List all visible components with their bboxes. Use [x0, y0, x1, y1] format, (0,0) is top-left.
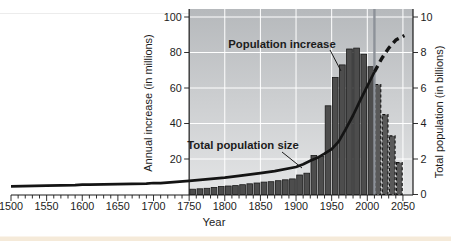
increase-bar — [204, 188, 210, 194]
increase-bar — [290, 179, 296, 195]
right-tick-label: 4 — [421, 117, 427, 129]
annotation-total-population: Total population size — [187, 139, 299, 151]
page-edge-strip — [0, 237, 451, 241]
increase-bar — [318, 156, 324, 194]
right-tick-label: 6 — [421, 82, 427, 94]
x-tick-label: 1900 — [284, 200, 308, 212]
increase-bar — [275, 181, 281, 195]
x-tick-label: 1800 — [213, 200, 237, 212]
increase-bar — [190, 189, 196, 194]
x-tick-label: 1650 — [106, 200, 130, 212]
population-growth-chart: 1500155016001650170017501800185019001950… — [0, 0, 451, 241]
increase-bar — [233, 186, 239, 195]
projected-increase-bar — [382, 115, 388, 195]
right-tick-label: 10 — [421, 11, 433, 23]
right-tick-label: 0 — [421, 188, 427, 200]
left-tick-label: 40 — [170, 117, 182, 129]
increase-bar — [354, 48, 360, 194]
increase-bar — [283, 180, 289, 195]
projected-increase-bar — [375, 85, 381, 195]
x-tick-label: 1850 — [248, 200, 272, 212]
increase-bar — [197, 189, 203, 195]
increase-bar — [261, 182, 267, 194]
left-axis-title: Annual increase (in millions) — [142, 34, 154, 172]
x-tick-label: 2050 — [391, 200, 415, 212]
increase-bar — [211, 187, 217, 194]
x-tick-label: 2000 — [355, 200, 379, 212]
increase-bar — [361, 54, 367, 194]
increase-bar — [297, 175, 303, 195]
left-tick-label: 20 — [170, 153, 182, 165]
right-tick-label: 2 — [421, 153, 427, 165]
increase-bar — [226, 186, 232, 195]
annotation-population-increase: Population increase — [228, 38, 335, 50]
x-tick-label: 1950 — [320, 200, 344, 212]
x-tick-label: 1750 — [177, 200, 201, 212]
x-tick-label: 1600 — [70, 200, 94, 212]
x-tick-label: 1700 — [142, 200, 166, 212]
x-tick-label: 1500 — [0, 200, 23, 212]
projected-increase-bar — [389, 136, 395, 195]
increase-bar — [218, 187, 224, 195]
left-tick-label: 60 — [170, 82, 182, 94]
increase-bar — [332, 77, 338, 194]
increase-bar — [268, 182, 274, 195]
left-tick-label: 80 — [170, 46, 182, 58]
right-tick-label: 8 — [421, 46, 427, 58]
x-axis-title: Year — [203, 216, 226, 228]
increase-bar — [247, 184, 253, 195]
left-tick-label: 100 — [164, 11, 182, 23]
increase-bar — [254, 183, 260, 195]
increase-bar — [304, 173, 310, 194]
projected-increase-bar — [397, 163, 403, 195]
population-growth-figure: 1500155016001650170017501800185019001950… — [0, 0, 451, 241]
x-tick-label: 1550 — [35, 200, 59, 212]
increase-bar — [240, 185, 246, 195]
right-axis-title: Total population (in billions) — [433, 46, 445, 179]
